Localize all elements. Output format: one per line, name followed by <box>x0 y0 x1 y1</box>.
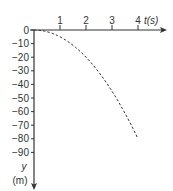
chart-canvas: 12340−10−20−30−40−50−60−70−80−90 t(s)y(m… <box>0 0 173 191</box>
y-tick-label: −50 <box>12 93 29 104</box>
x-tick-label: 4 <box>135 15 141 26</box>
y-axis-unit: (m) <box>13 175 28 186</box>
y-tick-label: −20 <box>12 52 29 63</box>
axes <box>30 27 167 190</box>
x-tick-label: 3 <box>109 15 115 26</box>
y-tick-label: −40 <box>12 79 29 90</box>
x-axis-unit: (s) <box>147 15 159 26</box>
y-tick-label: −80 <box>12 133 29 144</box>
y-tick-label: −30 <box>12 65 29 76</box>
y-tick-label: −60 <box>12 106 29 117</box>
x-axis-label: t(s) <box>144 15 158 26</box>
y-tick-label: −10 <box>12 38 29 49</box>
y-axis-var: y <box>21 161 28 172</box>
data-curve <box>34 30 138 139</box>
data-series-line <box>34 30 138 139</box>
y-tick-label: −90 <box>12 147 29 158</box>
x-tick-label: 1 <box>57 15 63 26</box>
y-tick-label: 0 <box>23 25 29 36</box>
y-tick-label: −70 <box>12 120 29 131</box>
ticks: 12340−10−20−30−40−50−60−70−80−90 <box>12 15 141 158</box>
x-tick-label: 2 <box>83 15 89 26</box>
